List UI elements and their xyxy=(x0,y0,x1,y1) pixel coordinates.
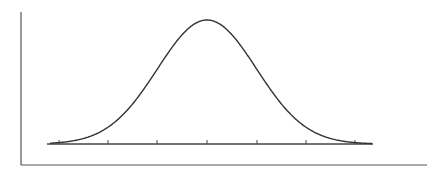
bell-curve-svg xyxy=(0,0,443,173)
normal-distribution-curve xyxy=(50,20,372,144)
bell-curve-figure xyxy=(0,0,443,173)
